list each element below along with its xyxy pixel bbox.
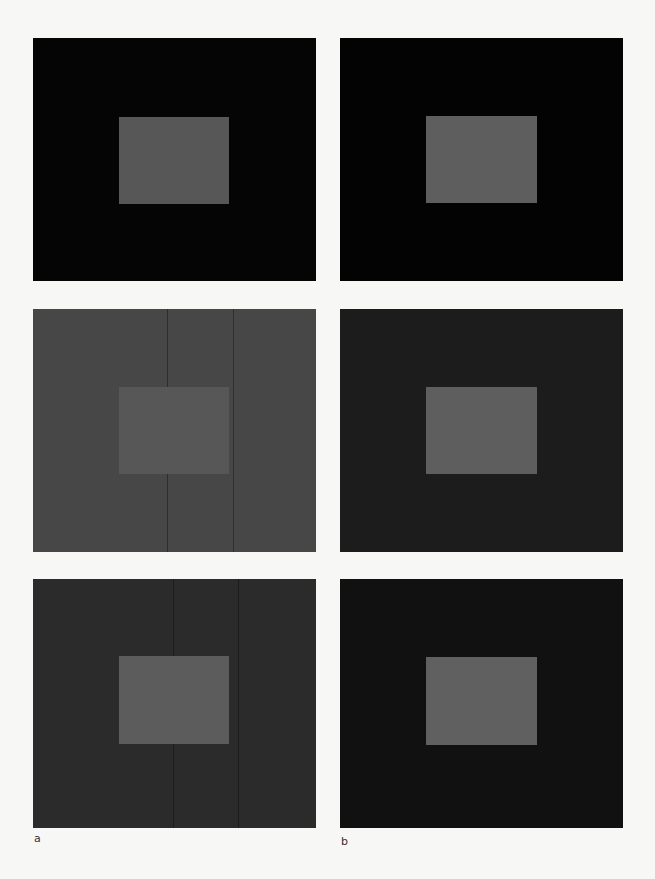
scan-streak [238,579,239,828]
panel-b-top-inner-square [426,116,537,203]
scan-streak [233,309,234,552]
panel-a-top-inner-square [119,117,229,204]
column-label-b: b [341,836,348,847]
panel-b-middle-inner-square [426,387,537,474]
column-label-a: a [34,833,41,844]
panel-a-top [33,38,316,281]
panel-b-bottom-inner-square [426,657,537,745]
panel-b-bottom [340,579,623,828]
panel-a-middle [33,309,316,552]
panel-b-middle [340,309,623,552]
panel-a-bottom-inner-square [119,656,229,744]
panel-b-top [340,38,623,281]
panel-a-middle-inner-square [119,387,229,474]
panel-a-bottom [33,579,316,828]
